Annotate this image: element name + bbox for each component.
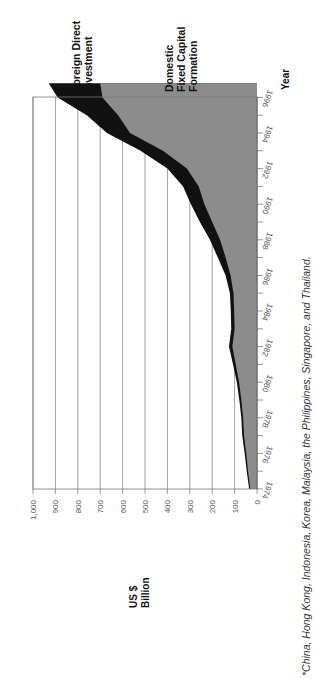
svg-text:500: 500 — [141, 499, 150, 513]
value-axis: 01002003004005006007008009001,000 — [29, 499, 262, 520]
label-line: Formation — [187, 27, 199, 92]
svg-text:300: 300 — [186, 499, 195, 513]
dfcf-area — [100, 83, 257, 489]
stacked-area-chart: 01002003004005006007008009001,000 197419… — [0, 0, 315, 679]
x-axis-title: Year — [280, 69, 292, 90]
svg-text:800: 800 — [74, 499, 83, 513]
svg-text:1984: 1984 — [260, 302, 275, 322]
svg-text:200: 200 — [208, 499, 217, 513]
svg-text:1980: 1980 — [260, 374, 275, 394]
svg-text:900: 900 — [51, 499, 60, 513]
svg-text:1978: 1978 — [260, 409, 275, 429]
svg-text:1986: 1986 — [260, 267, 275, 287]
label-line: Foreign Direct — [70, 21, 82, 92]
svg-text:1994: 1994 — [260, 124, 275, 144]
year-axis: 1974197619781980198219841986198819901992… — [257, 89, 275, 501]
svg-text:0: 0 — [253, 499, 262, 504]
svg-text:1996: 1996 — [260, 89, 275, 109]
label-line: Domestic — [163, 27, 175, 92]
footnote: *China, Hong Kong, Indonesia, Korea, Mal… — [300, 256, 312, 676]
svg-text:1990: 1990 — [260, 196, 275, 216]
svg-text:1992: 1992 — [260, 160, 275, 180]
label-line: Fixed Capital — [175, 27, 187, 92]
svg-text:1982: 1982 — [260, 338, 275, 358]
svg-text:1976: 1976 — [260, 445, 275, 465]
svg-text:1988: 1988 — [260, 231, 275, 251]
svg-text:100: 100 — [231, 499, 240, 513]
label-foreign-direct-investment: Foreign Direct Investment — [70, 21, 94, 92]
unit-line: Billion — [140, 577, 152, 608]
y-axis-title: US $ Billion — [128, 577, 152, 608]
svg-text:600: 600 — [119, 499, 128, 513]
unit-line: US $ — [128, 577, 140, 608]
svg-text:700: 700 — [96, 499, 105, 513]
label-line: Investment — [82, 21, 94, 92]
svg-text:400: 400 — [163, 499, 172, 513]
svg-text:1,000: 1,000 — [29, 499, 38, 520]
svg-text:1974: 1974 — [260, 480, 275, 500]
label-domestic-fixed-capital-formation: Domestic Fixed Capital Formation — [163, 27, 199, 92]
